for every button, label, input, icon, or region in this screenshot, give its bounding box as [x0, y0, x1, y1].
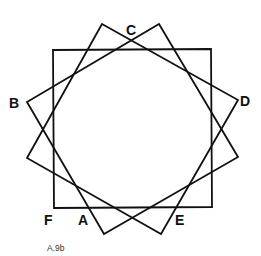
rotated-square-1 [27, 24, 238, 234]
diagram-canvas: C B D F A E A.9b [0, 0, 261, 256]
rotated-square-2 [27, 24, 238, 234]
label-d: D [240, 93, 250, 109]
label-f: F [44, 212, 53, 228]
label-b: B [9, 95, 19, 111]
label-c: C [126, 22, 136, 38]
label-a: A [78, 212, 88, 228]
label-e: E [175, 212, 184, 228]
figure-caption: A.9b [47, 243, 65, 253]
